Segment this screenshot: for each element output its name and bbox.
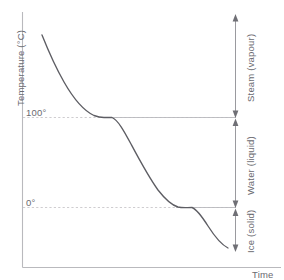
cooling-curve-path bbox=[42, 35, 228, 248]
ice-arrow-head-top bbox=[233, 209, 239, 217]
steam-arrow-head-bottom bbox=[233, 111, 239, 119]
steam-arrow-head-top bbox=[233, 14, 239, 22]
water-arrow-head-top bbox=[233, 119, 239, 127]
y-axis-title: Temperature (°C) bbox=[16, 30, 26, 106]
chart-canvas bbox=[0, 0, 284, 280]
phase-label-ice: Ice (solid) bbox=[246, 210, 256, 253]
cooling-curve-chart: Temperature (°C) 100° 0° Time Steam (vap… bbox=[0, 0, 284, 280]
x-axis-title: Time bbox=[252, 270, 274, 280]
y-tick-label-100: 100° bbox=[26, 108, 46, 118]
phase-label-steam: Steam (vapour) bbox=[246, 34, 256, 102]
water-arrow-head-bottom bbox=[233, 201, 239, 209]
y-tick-label-0: 0° bbox=[26, 198, 35, 208]
phase-label-water: Water (liquid) bbox=[246, 136, 256, 195]
ice-arrow-head-bottom bbox=[233, 245, 239, 253]
